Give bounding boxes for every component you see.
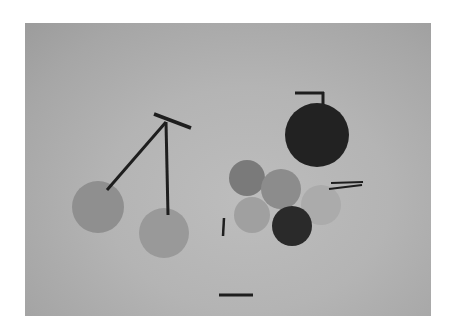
- small-vertical-bar-line: [223, 218, 224, 236]
- middle-cherry-circle: [139, 208, 189, 258]
- double-line-top-line: [331, 182, 363, 183]
- composition: [0, 0, 452, 327]
- double-line-bottom-line: [329, 185, 362, 189]
- cherry-stem-left-line: [107, 122, 166, 190]
- cherry-top-bar-line: [154, 114, 191, 128]
- cherry-stem-right-line: [166, 122, 168, 215]
- cluster-circle-dark-circle: [272, 206, 312, 246]
- left-cherry-circle: [72, 181, 124, 233]
- large-dark-circle-circle: [285, 103, 349, 167]
- cluster-circle-center-circle: [261, 169, 301, 209]
- cluster-circle-top-left-circle: [229, 160, 265, 196]
- cluster-circle-bottom-left-circle: [234, 197, 270, 233]
